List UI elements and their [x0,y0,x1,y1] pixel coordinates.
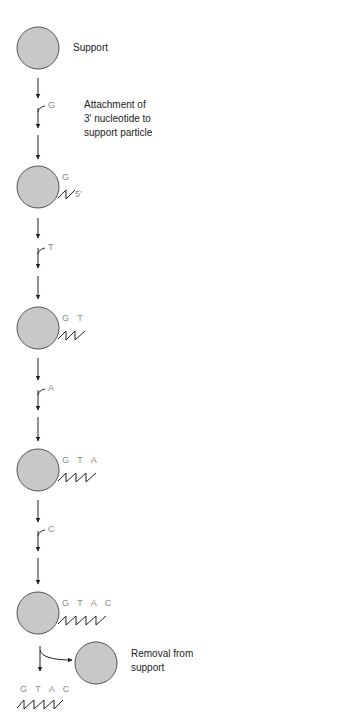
attachment-label-line2: 3′ nucleotide to [84,112,151,126]
added-nucleotide-3: A [48,383,54,393]
support-particle-3 [17,307,59,349]
chain-sequence-3: G T A [62,455,100,465]
removal-label-line1: Removal from [131,647,193,661]
arrow-group-4 [38,500,45,584]
chain-zigzag-1 [58,190,75,199]
support-label: Support [73,41,108,55]
removal-arrows [40,646,72,671]
support-particle-released [75,642,117,684]
chain-zigzag-3 [58,473,96,482]
arrow-group-3 [38,358,45,441]
added-nucleotide-4: C [48,524,55,534]
support-particle-4 [17,449,59,491]
arrow-group-2 [38,218,45,299]
arrow-group-1 [38,78,45,159]
released-chain-sequence: G T A C [20,684,72,694]
chain-zigzag-2 [58,331,85,340]
chain-sequence-4: G T A C [62,598,114,608]
attachment-label-line3: support particle [84,126,152,140]
chain-sequence-1: G [62,172,72,182]
chain-sequence-2: G T [62,313,86,323]
chain-zigzag-released [17,700,63,709]
added-nucleotide-2: T [48,242,54,252]
removal-label-line2: support [131,661,164,675]
five-prime-label: 5′ [75,189,82,199]
chain-zigzag-4 [58,616,106,625]
support-particle-2 [17,166,59,208]
support-particle-1 [17,27,59,69]
support-particle-5 [17,592,59,634]
added-nucleotide-1: G [48,100,55,110]
attachment-label-line1: Attachment of [84,98,146,112]
